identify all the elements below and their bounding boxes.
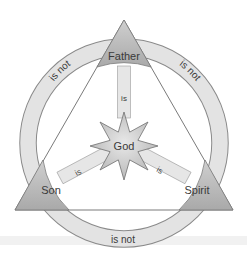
- spoke-top: [118, 66, 131, 118]
- label-son-spirit: is not: [111, 234, 135, 245]
- label-father: Father: [108, 50, 140, 62]
- label-father-god: is: [121, 94, 127, 103]
- label-spirit: Spirit: [184, 184, 209, 196]
- label-god: God: [114, 140, 135, 152]
- trinity-diagram: Father Son Spirit God is is is is not is…: [0, 0, 247, 269]
- label-son: Son: [41, 184, 61, 196]
